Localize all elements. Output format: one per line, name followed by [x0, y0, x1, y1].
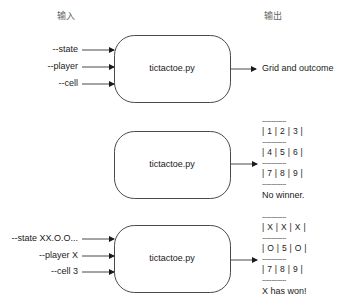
- arg-cell-value: --cell 3: [0, 266, 78, 276]
- grid-separator: -------------: [262, 256, 307, 262]
- box-label-1: tictactoe.py: [114, 63, 230, 73]
- arg-cell: --cell: [0, 78, 78, 88]
- arg-player: --player: [0, 61, 78, 71]
- grid-row: | 7 | 8 | 9 |: [262, 168, 305, 178]
- grid-separator: -------------: [262, 139, 305, 145]
- grid-separator: -------------: [262, 181, 305, 187]
- grid-output-1: ------------- | 1 | 2 | 3 | ------------…: [262, 118, 305, 200]
- grid-separator: -------------: [262, 214, 307, 220]
- grid-row: | 1 | 2 | 3 |: [262, 126, 305, 136]
- grid-separator: -------------: [262, 235, 307, 241]
- output-header: 输出: [264, 9, 282, 22]
- grid-separator: -------------: [262, 160, 305, 166]
- grid-outcome: No winner.: [262, 190, 305, 200]
- output-label: Grid and outcome: [262, 63, 334, 73]
- grid-separator: -------------: [262, 118, 305, 124]
- input-header: 输入: [57, 9, 75, 22]
- grid-output-2: ------------- | X | X | X | ------------…: [262, 214, 307, 296]
- grid-row: | 7 | 8 | 9 |: [262, 264, 307, 274]
- box-label-3: tictactoe.py: [114, 253, 230, 263]
- grid-row: | O | 5 | O |: [262, 243, 307, 253]
- grid-outcome: X has won!: [262, 286, 307, 296]
- grid-row: | 4 | 5 | 6 |: [262, 147, 305, 157]
- arg-player-value: --player X: [0, 250, 78, 260]
- arg-state: --state: [0, 44, 78, 54]
- grid-separator: -------------: [262, 277, 307, 283]
- grid-row: | X | X | X |: [262, 222, 307, 232]
- box-label-2: tictactoe.py: [114, 159, 230, 169]
- arg-state-value: --state XX.O.O...: [0, 233, 78, 243]
